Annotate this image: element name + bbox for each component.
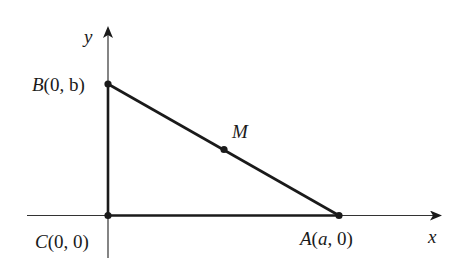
point-b (104, 80, 111, 87)
diagram-svg: y x B(0, b) C(0, 0) A(a, 0) M (0, 0, 467, 274)
label-b: B(0, b) (32, 74, 85, 96)
label-c: C(0, 0) (35, 231, 89, 253)
point-c (104, 212, 111, 219)
x-axis-label: x (427, 226, 437, 247)
coordinate-diagram: y x B(0, b) C(0, 0) A(a, 0) M (0, 0, 467, 274)
label-a: A(a, 0) (298, 228, 353, 250)
label-a-coords: (a, 0) (312, 228, 353, 250)
label-m: M (231, 121, 249, 142)
y-axis-label: y (82, 26, 93, 47)
point-a (335, 212, 342, 219)
point-m (220, 146, 227, 153)
